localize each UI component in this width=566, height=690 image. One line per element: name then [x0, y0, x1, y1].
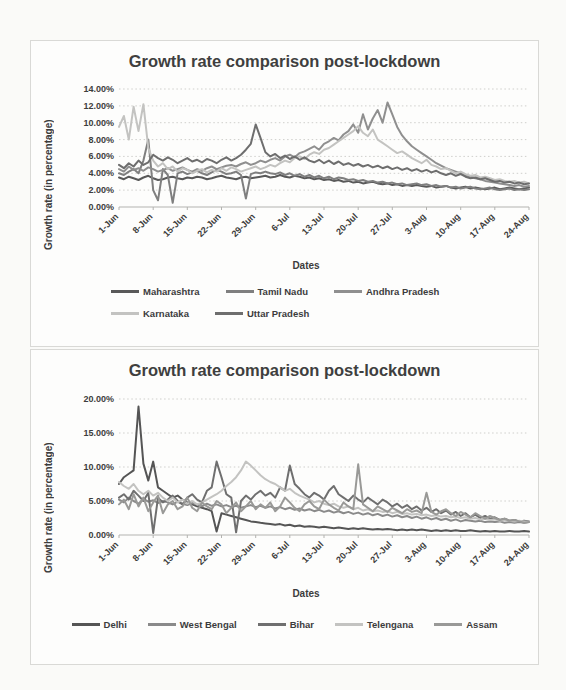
legend-line-swatch: [226, 290, 254, 293]
x-tick-label: 1-Jun: [96, 539, 120, 563]
legend-label: Karnataka: [143, 308, 189, 319]
legend-item-delhi: Delhi: [72, 619, 127, 630]
x-tick-label: 29-Jun: [230, 539, 258, 567]
legend-item-tamil-nadu: Tamil Nadu: [226, 286, 309, 297]
y-tick-label: 14.00%: [83, 84, 114, 94]
legend-line-swatch: [111, 290, 139, 293]
y-axis-title: Growth rate (in percentage): [43, 429, 54, 587]
legend-item-uttar-pradesh: Uttar Pradesh: [215, 308, 309, 319]
x-tick-label: 24-Aug: [502, 211, 531, 240]
x-tick-label: 6-Jul: [269, 539, 291, 561]
x-axis-title: Dates: [73, 588, 539, 599]
x-tick-label: 20-Jul: [334, 211, 359, 236]
x-tick-label: 8-Jun: [131, 539, 155, 563]
legend-label: Bihar: [290, 619, 314, 630]
y-tick-label: 0.00%: [88, 530, 114, 540]
legend-item-assam: Assam: [434, 619, 497, 630]
legend-line-swatch: [434, 623, 462, 626]
legend-item-bihar: Bihar: [258, 619, 314, 630]
x-tick-label: 3-Aug: [403, 539, 428, 564]
legend-label: Andhra Pradesh: [366, 286, 439, 297]
x-tick-label: 1-Jun: [96, 211, 120, 235]
chart-legend: MaharashtraTamil NaduAndhra PradeshKarna…: [111, 286, 511, 319]
chart-panel-top-states: Growth rate comparison post-lockdown Gro…: [30, 40, 539, 347]
chart-panel-bottom-states: Growth rate comparison post-lockdown Gro…: [30, 349, 539, 665]
x-tick-label: 13-Jul: [300, 211, 325, 236]
x-tick-label: 3-Aug: [403, 211, 428, 236]
legend-line-swatch: [111, 312, 139, 315]
y-tick-label: 5.00%: [88, 496, 114, 506]
legend-item-maharashtra: Maharashtra: [111, 286, 200, 297]
y-tick-label: 10.00%: [83, 462, 114, 472]
legend-item-telengana: Telengana: [335, 619, 413, 630]
legend-line-swatch: [335, 623, 363, 626]
y-tick-label: 8.00%: [88, 135, 114, 145]
x-tick-label: 22-Jun: [195, 539, 223, 567]
y-tick-label: 2.00%: [88, 185, 114, 195]
legend-line-swatch: [148, 623, 176, 626]
x-tick-label: 17-Aug: [468, 539, 497, 568]
series-line-telengana: [119, 462, 529, 522]
plot-area-wrapper: Growth rate (in percentage) 0.00%5.00%10…: [31, 393, 538, 587]
scanned-figure-page: Growth rate comparison post-lockdown Gro…: [0, 0, 566, 690]
x-tick-label: 27-Jul: [368, 539, 393, 564]
legend-label: Telengana: [367, 619, 413, 630]
legend-label: West Bengal: [180, 619, 237, 630]
x-axis-title: Dates: [73, 260, 539, 271]
x-tick-label: 10-Aug: [433, 211, 462, 240]
legend-label: Delhi: [104, 619, 127, 630]
x-tick-label: 10-Aug: [433, 539, 462, 568]
plot-area-wrapper: Growth rate (in percentage) 0.00%2.00%4.…: [31, 83, 538, 259]
y-axis-title: Growth rate (in percentage): [43, 117, 54, 253]
x-tick-label: 17-Aug: [468, 211, 497, 240]
x-tick-label: 29-Jun: [230, 211, 258, 239]
legend-item-west-bengal: West Bengal: [148, 619, 237, 630]
legend-line-swatch: [72, 623, 100, 626]
x-tick-label: 20-Jul: [334, 539, 359, 564]
y-tick-label: 10.00%: [83, 118, 114, 128]
y-tick-label: 15.00%: [83, 428, 114, 438]
y-tick-label: 0.00%: [88, 202, 114, 212]
y-tick-label: 6.00%: [88, 151, 114, 161]
legend-item-karnataka: Karnataka: [111, 308, 189, 319]
x-tick-label: 27-Jul: [368, 211, 393, 236]
legend-line-swatch: [215, 312, 243, 315]
line-chart-top: 0.00%2.00%4.00%6.00%8.00%10.00%12.00%14.…: [73, 83, 539, 259]
x-tick-label: 15-Jun: [161, 539, 189, 567]
x-tick-label: 8-Jun: [131, 211, 155, 235]
chart-title: Growth rate comparison post-lockdown: [31, 52, 538, 71]
line-chart-bottom: 0.00%5.00%10.00%15.00%20.00%1-Jun8-Jun15…: [73, 393, 539, 587]
chart-title: Growth rate comparison post-lockdown: [31, 361, 538, 380]
legend-label: Tamil Nadu: [258, 286, 309, 297]
legend-line-swatch: [334, 290, 362, 293]
x-tick-label: 13-Jul: [300, 539, 325, 564]
x-tick-label: 15-Jun: [161, 211, 189, 239]
legend-item-andhra-pradesh: Andhra Pradesh: [334, 286, 439, 297]
y-tick-label: 4.00%: [88, 168, 114, 178]
x-tick-label: 6-Jul: [269, 211, 291, 233]
legend-label: Assam: [466, 619, 497, 630]
legend-line-swatch: [258, 623, 286, 626]
chart-legend: DelhiWest BengalBiharTelenganaAssam: [31, 619, 538, 630]
legend-label: Maharashtra: [143, 286, 200, 297]
x-tick-label: 22-Jun: [195, 211, 223, 239]
y-tick-label: 12.00%: [83, 101, 114, 111]
y-tick-label: 20.00%: [83, 394, 114, 404]
x-tick-label: 24-Aug: [502, 539, 531, 568]
legend-label: Uttar Pradesh: [247, 308, 309, 319]
